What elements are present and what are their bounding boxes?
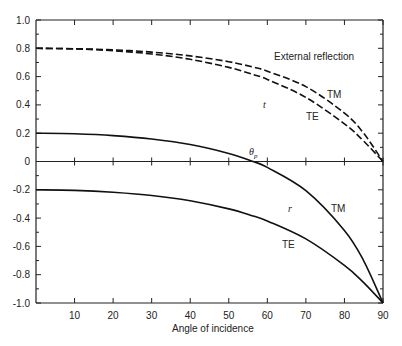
x-tick-label: 20 bbox=[108, 310, 120, 321]
y-tick-label: 0 bbox=[24, 156, 30, 167]
y-tick-label: 0.2 bbox=[16, 128, 30, 139]
x-tick-label: 80 bbox=[339, 310, 351, 321]
theta-subscript: p bbox=[253, 152, 258, 160]
y-tick-label: 1.0 bbox=[16, 15, 30, 26]
y-tick-label: -0.6 bbox=[13, 241, 31, 252]
annotation-r: r bbox=[288, 203, 292, 214]
annotation-external-reflection: External reflection bbox=[274, 51, 354, 62]
x-tick-label: 50 bbox=[223, 310, 235, 321]
x-axis-ticks: 102030405060708090 bbox=[69, 20, 389, 321]
y-tick-label: 0.6 bbox=[16, 71, 30, 82]
x-tick-label: 10 bbox=[69, 310, 81, 321]
data-curves bbox=[36, 48, 383, 303]
curve-t-te bbox=[36, 48, 383, 161]
x-tick-label: 60 bbox=[262, 310, 274, 321]
annotation-te-reflection: TE bbox=[282, 239, 295, 250]
annotation-brewster-angle: θp bbox=[249, 146, 258, 160]
y-tick-label: 0.4 bbox=[16, 99, 30, 110]
x-tick-label: 70 bbox=[300, 310, 312, 321]
y-tick-label: -0.4 bbox=[13, 213, 31, 224]
annotation-te-transmission: TE bbox=[306, 111, 319, 122]
y-tick-label: -1.0 bbox=[13, 298, 31, 309]
annotation-tm-transmission: TM bbox=[327, 89, 341, 100]
curve-t-tm bbox=[36, 48, 383, 161]
y-tick-label: 0.8 bbox=[16, 43, 30, 54]
curve-r-tm bbox=[36, 133, 383, 303]
y-tick-label: -0.2 bbox=[13, 184, 31, 195]
x-tick-label: 40 bbox=[185, 310, 197, 321]
annotation-t: t bbox=[263, 99, 266, 110]
x-axis-label: Angle of incidence bbox=[172, 323, 254, 334]
annotation-tm-reflection: TM bbox=[331, 203, 345, 214]
fresnel-coefficients-chart: 1.00.80.60.40.20-0.2-0.4-0.6-0.8-1.0 102… bbox=[0, 0, 402, 346]
x-tick-label: 90 bbox=[377, 310, 389, 321]
x-tick-label: 30 bbox=[146, 310, 158, 321]
y-tick-label: -0.8 bbox=[13, 269, 31, 280]
